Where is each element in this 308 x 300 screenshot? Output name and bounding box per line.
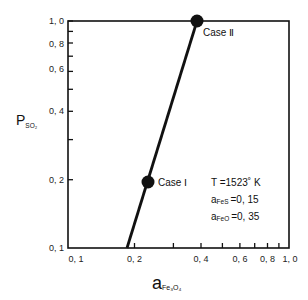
- x-tick-label: 0, 6: [232, 254, 247, 264]
- x-tick-label: 0, 1: [68, 254, 83, 264]
- afes-annotation: aFeS=0, 15: [211, 194, 259, 205]
- case-1-label: Case Ⅰ: [158, 177, 187, 188]
- temperature-annotation: T =1523˚ K: [211, 177, 261, 188]
- case-1-point: [142, 176, 155, 189]
- x-tick-label: 0, 8: [260, 254, 275, 264]
- y-tick-label: 0, 2: [49, 175, 64, 185]
- case-2-point: [191, 15, 204, 28]
- y-tick-label: 0, 4: [49, 106, 64, 116]
- chart: 1, 0 0, 8 0, 6 0, 4 0, 2 0, 1 0, 1 0, 2 …: [0, 0, 308, 300]
- y-tick-label: 0, 1: [49, 243, 64, 253]
- y-tick-label: 1, 0: [49, 16, 64, 26]
- y-tick-label: 0, 8: [49, 39, 64, 49]
- x-tick-label: 0, 2: [127, 254, 142, 264]
- equilibrium-line: [127, 21, 197, 248]
- x-tick-label: 1, 0: [282, 254, 297, 264]
- x-axis-title: aFe₃O₄: [152, 273, 181, 293]
- case-2-label: Case Ⅱ: [203, 27, 234, 38]
- y-tick-label: 0, 6: [49, 64, 64, 74]
- afeo-annotation: aFeO=0, 35: [211, 211, 260, 222]
- x-tick-label: 0, 4: [193, 254, 208, 264]
- y-axis-title: PSO₂: [16, 112, 38, 129]
